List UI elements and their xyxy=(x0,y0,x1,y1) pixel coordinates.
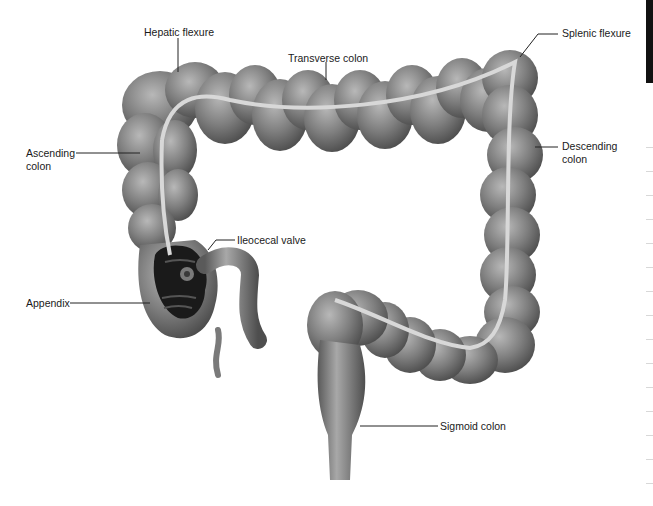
page-edge-tick xyxy=(646,171,653,172)
page-edge-tick xyxy=(646,267,653,268)
label-ileocecal-valve: Ileocecal valve xyxy=(237,234,306,247)
label-splenic-flexure: Splenic flexure xyxy=(562,27,631,40)
page-edge-tick xyxy=(646,483,653,484)
label-appendix: Appendix xyxy=(26,297,70,310)
colon-illustration xyxy=(0,0,653,506)
page-edge-tick xyxy=(646,219,653,220)
page-edge-tick xyxy=(646,195,653,196)
label-transverse-colon: Transverse colon xyxy=(288,52,368,65)
label-descending-line1: Descending xyxy=(562,140,617,153)
label-ascending-line2: colon xyxy=(26,160,75,173)
label-descending-colon: Descending colon xyxy=(562,140,617,166)
page-edge-tick xyxy=(646,243,653,244)
page-edge-tick xyxy=(646,411,653,412)
label-ascending-line1: Ascending xyxy=(26,147,75,160)
page-edge-tick xyxy=(646,363,653,364)
ascending-colon xyxy=(117,113,198,252)
label-sigmoid-colon: Sigmoid colon xyxy=(440,420,506,433)
page-edge-tick xyxy=(646,459,653,460)
label-hepatic-flexure: Hepatic flexure xyxy=(144,26,214,39)
page-edge-tick xyxy=(646,339,653,340)
page-edge-tick xyxy=(646,147,653,148)
appendix xyxy=(216,330,219,375)
sigmoid-colon xyxy=(318,340,366,480)
page-edge-tick xyxy=(646,315,653,316)
page-edge-tick xyxy=(646,387,653,388)
page-edge-tick xyxy=(646,291,653,292)
label-descending-line2: colon xyxy=(562,153,617,166)
label-ascending-colon: Ascending colon xyxy=(26,147,75,173)
page-edge-tab xyxy=(646,0,653,83)
page-edge-tick xyxy=(646,435,653,436)
